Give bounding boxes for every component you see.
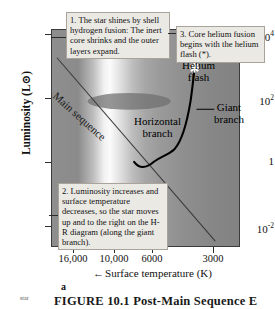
label-helium-flash-line2: flash (182, 72, 215, 84)
x-tick-label-6000: 6000 (130, 253, 174, 264)
x-axis-direction-arrow-icon: ← (93, 267, 102, 279)
figure-caption: FIGURE 10.1 Post-Main Sequence E (54, 294, 274, 309)
y-tick-base-1: 1 (269, 155, 275, 167)
y-tick-base-10e2: 10 (259, 95, 270, 107)
x-tick-label-3000: 3000 (191, 253, 235, 264)
callout-2: 2. Luminosity increases and surface temp… (58, 183, 168, 250)
x-axis-title-text: Surface temperature (K) (105, 267, 212, 279)
panel-letter: a (61, 281, 66, 292)
label-horizontal-branch-line1: Horizontal (134, 116, 181, 128)
label-giant-branch-line2: branch (214, 114, 244, 126)
callout-1: 1. The star shines by shell hydrogen fus… (66, 12, 170, 59)
y-tick-exp-10e2: 2 (270, 93, 274, 102)
label-horizontal-branch-line2: branch (134, 128, 181, 140)
y-tick-exp-10e4: 4 (270, 29, 274, 38)
callout-3: 3. Core helium fusion begins with the he… (176, 26, 265, 63)
figure-hr-diagram: Luminosity (L⊙) 104 102 1 10-2 Main (0, 0, 274, 303)
label-giant-branch: Giant branch (214, 102, 244, 125)
y-tick-base-10e-2: 10 (257, 223, 268, 235)
label-giant-branch-line1: Giant (214, 102, 244, 114)
x-axis-title: ←Surface temperature (K) (60, 267, 245, 279)
label-horizontal-branch: Horizontal branch (134, 116, 181, 139)
callout-1-leader-line (51, 37, 67, 38)
y-tick-exp-10e-2: -2 (268, 221, 274, 230)
label-helium-flash: Helium flash (182, 60, 215, 83)
caption-sidenote: star (20, 295, 29, 301)
y-axis-title: Luminosity (L⊙) (19, 38, 33, 188)
